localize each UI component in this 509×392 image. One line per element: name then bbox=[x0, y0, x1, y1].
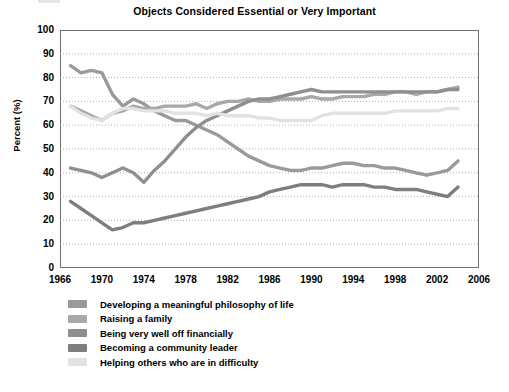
legend-label: Raising a family bbox=[100, 313, 172, 324]
legend-item[interactable]: Developing a meaningful philosophy of li… bbox=[68, 297, 294, 312]
y-tick-label: 10 bbox=[24, 239, 54, 249]
y-tick-label: 70 bbox=[24, 96, 54, 106]
x-tick-label: 2002 bbox=[417, 275, 457, 285]
x-tick-label: 1970 bbox=[82, 275, 122, 285]
x-tick-label: 1994 bbox=[333, 275, 373, 285]
x-tick-label: 1990 bbox=[291, 275, 331, 285]
x-tick-label: 1998 bbox=[375, 275, 415, 285]
series-line bbox=[70, 185, 458, 230]
y-tick-label: 20 bbox=[24, 215, 54, 225]
legend-swatch bbox=[68, 329, 87, 337]
legend-swatch bbox=[68, 315, 87, 323]
x-tick-label: 1982 bbox=[208, 275, 248, 285]
chart-legend: Developing a meaningful philosophy of li… bbox=[68, 297, 294, 370]
legend-item[interactable]: Being very well off financially bbox=[68, 326, 294, 341]
series-line bbox=[70, 106, 458, 120]
legend-swatch bbox=[68, 358, 87, 366]
y-tick-label: 30 bbox=[24, 192, 54, 202]
series-line bbox=[70, 66, 458, 175]
y-tick-label: 80 bbox=[24, 73, 54, 83]
legend-item[interactable]: Raising a family bbox=[68, 312, 294, 327]
y-tick-label: 50 bbox=[24, 144, 54, 154]
x-tick-label: 1986 bbox=[250, 275, 290, 285]
legend-label: Developing a meaningful philosophy of li… bbox=[100, 299, 294, 310]
x-tick-label: 1978 bbox=[166, 275, 206, 285]
x-tick-label: 2006 bbox=[459, 275, 499, 285]
chart-title: Objects Considered Essential or Very Imp… bbox=[0, 5, 509, 17]
x-tick-label: 1974 bbox=[124, 275, 164, 285]
x-tick-label: 1966 bbox=[40, 275, 80, 285]
y-tick-label: 40 bbox=[24, 168, 54, 178]
y-tick-label: 60 bbox=[24, 120, 54, 130]
y-tick-label: 90 bbox=[24, 49, 54, 59]
y-tick-label: 100 bbox=[24, 25, 54, 35]
chart-page: Objects Considered Essential or Very Imp… bbox=[0, 0, 509, 392]
legend-swatch bbox=[68, 344, 87, 352]
legend-label: Helping others who are in difficulty bbox=[100, 357, 258, 368]
legend-item[interactable]: Helping others who are in difficulty bbox=[68, 355, 294, 370]
legend-label: Being very well off financially bbox=[100, 328, 233, 339]
scan-artifact bbox=[38, 0, 60, 3]
legend-item[interactable]: Becoming a community leader bbox=[68, 341, 294, 356]
legend-label: Becoming a community leader bbox=[100, 342, 238, 353]
legend-swatch bbox=[68, 300, 87, 308]
y-tick-label: 0 bbox=[24, 263, 54, 273]
y-axis-label: Percent (%) bbox=[11, 86, 22, 166]
series-canvas bbox=[60, 30, 479, 268]
